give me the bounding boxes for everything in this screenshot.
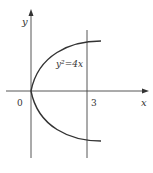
equation-label: y²=4x <box>55 59 83 69</box>
origin-label: 0 <box>17 98 23 108</box>
x-axis-arrow-icon <box>142 89 149 94</box>
y-axis-label: y <box>21 16 28 27</box>
x-3-label: 3 <box>91 98 97 108</box>
parabola-diagram: y x 0 3 y²=4x <box>0 0 153 173</box>
y-axis-arrow-icon <box>29 9 34 16</box>
x-axis-label: x <box>141 97 147 108</box>
